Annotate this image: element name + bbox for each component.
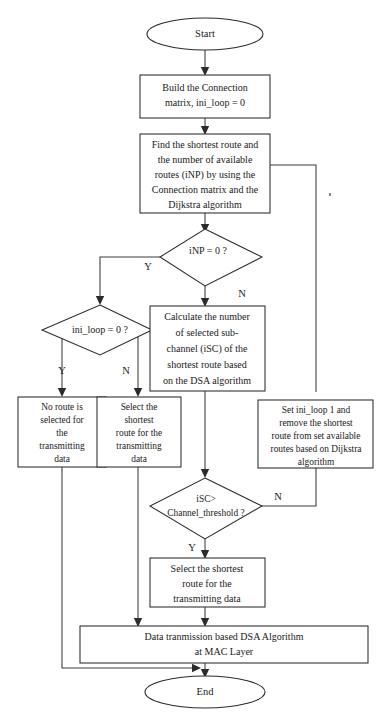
find-route-line-4: Connection matrix and the [152, 184, 259, 195]
select-shortest-bottom-line-2: route for the [182, 578, 232, 589]
isc-threshold-line-2: Channel_threshold ? [167, 508, 244, 518]
node-build-matrix[interactable]: Build the Connection matrix, ini_loop = … [140, 75, 270, 118]
arrowhead-isc-decision [201, 469, 209, 478]
select-shortest-left-line-4: transmitting [116, 441, 162, 451]
branch-label-inp-yes: Y [144, 261, 152, 272]
node-calculate-isc[interactable]: Calculate the number of selected sub- ch… [150, 306, 265, 391]
branch-label-iniloop-no: N [122, 365, 130, 376]
set-ini-loop-line-5: algorithm [298, 457, 335, 467]
node-end[interactable]: End [145, 676, 265, 708]
calculate-isc-line-3: channel (iSC) of the [167, 343, 248, 355]
arrowhead-end-left [192, 664, 201, 672]
no-route-line-3: the [56, 428, 67, 438]
branch-label-isc-yes: Y [188, 542, 196, 553]
set-ini-loop-line-4: routes based on Dijkstra [271, 444, 363, 454]
select-shortest-left-line-5: data [131, 454, 147, 464]
inp-decision-label: iNP = 0 ? [189, 245, 227, 256]
find-route-line-2: the number of available [158, 154, 253, 165]
no-route-line-5: data [54, 454, 70, 464]
no-route-line-2: selected for [40, 415, 84, 425]
no-route-line-1: No route is [41, 402, 83, 412]
node-find-route[interactable]: Find the shortest route and the number o… [140, 134, 270, 213]
data-transmission-line-1: Data tranmission based DSA Algorithm [145, 631, 304, 642]
branch-label-isc-no: N [274, 491, 282, 502]
no-route-line-4: transmitting [39, 441, 85, 451]
node-isc-threshold-decision[interactable]: iSC> Channel_threshold ? [150, 478, 262, 539]
calculate-isc-line-2: of selected sub- [176, 327, 239, 338]
set-ini-loop-line-1: Set ini_loop 1 and [282, 405, 351, 415]
flowchart-svg: Start Build the Connection matrix, ini_l… [0, 0, 387, 717]
start-label: Start [195, 28, 215, 39]
ini-loop-decision-label: ini_loop = 0 ? [72, 324, 128, 335]
select-shortest-bottom-line-1: Select the shortest [171, 563, 244, 574]
select-shortest-left-line-1: Select the [121, 402, 158, 412]
isc-threshold-line-1: iSC> [196, 494, 215, 504]
node-inp-decision[interactable]: iNP = 0 ? [160, 229, 262, 286]
find-route-line-1: Find the shortest route and [152, 139, 259, 150]
node-no-route[interactable]: No route is selected for the transmittin… [18, 397, 106, 467]
arrowhead-select-left [134, 388, 142, 397]
node-data-transmission[interactable]: Data tranmission based DSA Algorithm at … [80, 626, 368, 663]
calculate-isc-line-4: shortest route based [167, 359, 246, 370]
branch-label-iniloop-yes: Y [58, 365, 66, 376]
calculate-isc-line-1: Calculate the number [164, 311, 250, 322]
arrowhead-no-route [58, 388, 66, 397]
build-matrix-line-2: matrix, ini_loop = 0 [165, 97, 245, 108]
node-select-shortest-bottom[interactable]: Select the shortest route for the transm… [150, 558, 265, 607]
node-select-shortest-left[interactable]: Select the shortest route for the transm… [97, 397, 181, 467]
set-ini-loop-line-2: remove the shortest [279, 418, 353, 428]
data-transmission-line-2: at MAC Layer [195, 646, 254, 657]
set-ini-loop-line-3: route from set available [272, 431, 361, 441]
calculate-isc-line-5: on the DSA algorithm [163, 375, 251, 386]
end-label: End [197, 686, 215, 697]
scan-speck [329, 193, 331, 196]
find-route-line-5: Dijkstra algorithm [168, 199, 242, 210]
node-set-ini-loop[interactable]: Set ini_loop 1 and remove the shortest r… [258, 400, 373, 468]
select-shortest-bottom-line-3: transmitting data [173, 593, 241, 604]
arrowhead-ini-loop [96, 296, 104, 305]
flowchart-canvas: Start Build the Connection matrix, ini_l… [0, 0, 387, 717]
branch-label-inp-no: N [238, 288, 246, 299]
inp-decision-shape [160, 229, 262, 286]
select-shortest-left-line-3: route for the [116, 428, 162, 438]
node-start[interactable]: Start [147, 18, 263, 50]
find-route-line-3: routes (iNP) by using the [155, 169, 256, 181]
select-shortest-left-line-2: shortest [124, 415, 154, 425]
build-matrix-line-1: Build the Connection [162, 82, 248, 93]
node-ini-loop-decision[interactable]: ini_loop = 0 ? [42, 305, 152, 355]
